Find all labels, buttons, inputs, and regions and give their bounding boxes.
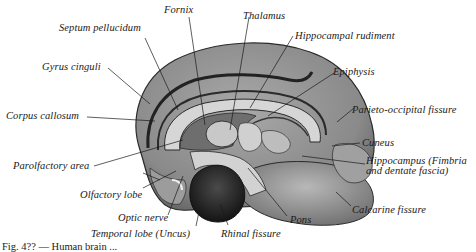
label-epiphysis: Epiphysis	[333, 66, 375, 77]
label-cuneus: Cuneus	[362, 137, 394, 148]
label-thalamus: Thalamus	[243, 10, 285, 21]
label-olfactory-lobe: Olfactory lobe	[80, 189, 142, 200]
label-pons: Pons	[290, 214, 311, 225]
label-hippocampus: Hippocampus (Fimbria and dentate fascia)	[366, 156, 476, 176]
figure-caption: Fig. 4?? — Human brain ...	[2, 241, 117, 252]
label-hippocampal-rudiment: Hippocampal rudiment	[295, 30, 395, 41]
label-calcarine-fissure: Calcarine fissure	[352, 204, 426, 215]
label-optic-nerve: Optic nerve	[118, 212, 168, 223]
label-fornix: Fornix	[164, 4, 193, 15]
thalamus-shape	[206, 121, 238, 147]
uncus-shape	[190, 165, 245, 222]
label-corpus-callosum: Corpus callosum	[6, 110, 79, 121]
label-temporal-lobe-uncus: Temporal lobe (Uncus)	[91, 228, 190, 239]
label-rhinal-fissure: Rhinal fissure	[221, 228, 281, 239]
label-gyrus-cinguli: Gyrus cinguli	[42, 61, 101, 72]
label-parieto-occipital-fissure: Parieto-occipital fissure	[352, 104, 456, 115]
label-parolfactory-area: Parolfactory area	[13, 160, 89, 171]
label-septum-pellucidum: Septum pellucidum	[59, 22, 141, 33]
